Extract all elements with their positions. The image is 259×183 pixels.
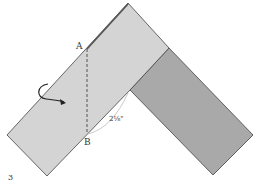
step-number: 3 <box>8 173 13 182</box>
measurement-label: 2¹⁄₈" <box>109 115 123 123</box>
folding-diagram: A B 2¹⁄₈" 3 <box>0 0 259 183</box>
point-a-label: A <box>75 41 83 51</box>
point-b-label: B <box>84 137 91 147</box>
